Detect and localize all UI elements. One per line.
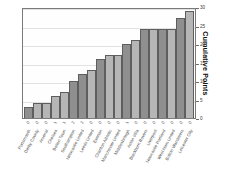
bar-series bbox=[23, 9, 195, 118]
bar bbox=[24, 107, 33, 118]
y-axis-tick bbox=[196, 119, 199, 120]
bar bbox=[60, 92, 69, 118]
y-axis-title: Cumulative Points bbox=[198, 8, 210, 119]
plot-area bbox=[22, 8, 196, 119]
bar bbox=[33, 103, 42, 118]
bar bbox=[105, 55, 114, 118]
bar bbox=[122, 44, 131, 118]
bar bbox=[51, 96, 60, 118]
bar bbox=[87, 70, 96, 118]
bar bbox=[78, 74, 87, 118]
bar bbox=[158, 29, 167, 118]
x-axis-label: Leicester City bbox=[186, 129, 195, 179]
bar bbox=[149, 29, 158, 118]
bar bbox=[42, 103, 51, 118]
x-axis-category-labels: PortsmouthDerby CountyArsenalChelseaBolt… bbox=[22, 129, 196, 179]
bar bbox=[69, 81, 78, 118]
bar bbox=[96, 59, 105, 118]
bar bbox=[185, 11, 194, 118]
bar bbox=[167, 29, 176, 118]
bar bbox=[131, 40, 140, 118]
bar bbox=[140, 29, 149, 118]
bar bbox=[176, 18, 185, 118]
bar bbox=[114, 55, 123, 118]
pareto-chart: 051015202530 Cumulative Points 000112200… bbox=[0, 0, 230, 179]
